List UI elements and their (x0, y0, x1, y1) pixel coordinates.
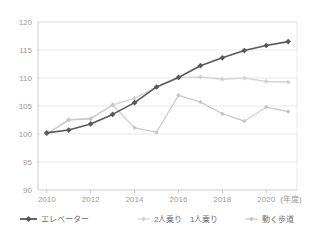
y-axis-tick-label: 90 (23, 186, 32, 195)
legend-swatch-marker-エレベーター (25, 216, 31, 222)
x-axis-tick-label: 2010 (38, 195, 56, 204)
data-point-動く歩道 (220, 112, 225, 117)
data-point-動く歩道 (176, 93, 181, 98)
legend-swatch-marker-動く歩道 (249, 217, 254, 222)
x-axis-tick-label: 2016 (170, 195, 188, 204)
x-axis-tick-label: 2012 (82, 195, 100, 204)
data-point-2人乗り (220, 77, 225, 82)
y-axis-tick-label: 105 (19, 102, 33, 111)
data-point-2人乗り (242, 76, 247, 81)
legend-label-エレベーター[interactable]: エレベーター (41, 215, 89, 224)
data-point-エレベーター (220, 55, 226, 61)
data-point-エレベーター (198, 63, 204, 69)
data-point-エレベーター (66, 127, 72, 133)
data-point-エレベーター (44, 130, 50, 136)
legend-label-2人乗り[interactable]: 2人乗り (154, 214, 182, 224)
data-point-2人乗り (286, 80, 291, 85)
data-point-2人乗り (198, 75, 203, 80)
data-point-エレベーター (285, 39, 291, 45)
legend-label-動く歩道[interactable]: 動く歩道 (262, 214, 294, 224)
series-line-動く歩道 (47, 95, 288, 134)
x-axis-unit-label: (年度) (280, 194, 302, 204)
data-point-エレベーター (241, 48, 247, 54)
x-axis-tick-label: 2020 (257, 195, 275, 204)
y-axis-tick-label: 115 (19, 46, 32, 55)
data-point-動く歩道 (286, 109, 291, 114)
data-point-エレベーター (88, 121, 94, 127)
data-point-エレベーター (263, 43, 269, 49)
y-axis-tick-label: 110 (19, 74, 32, 83)
data-point-エレベーター (110, 112, 116, 118)
y-axis-tick-label: 100 (19, 130, 33, 139)
chart-canvas: 9095100105110115120201020122014201620182… (0, 0, 312, 236)
data-point-2人乗り (264, 79, 269, 84)
legend-label-1人乗り[interactable]: 1人乗り (190, 214, 218, 224)
x-axis-tick-label: 2018 (213, 195, 231, 204)
y-axis-tick-label: 95 (23, 158, 32, 167)
y-axis-tick-label: 120 (19, 18, 33, 27)
legend-swatch-marker-2人乗り (141, 217, 146, 222)
x-axis-tick-label: 2014 (126, 195, 144, 204)
line-chart: 9095100105110115120201020122014201620182… (0, 0, 312, 236)
data-point-動く歩道 (198, 100, 203, 105)
